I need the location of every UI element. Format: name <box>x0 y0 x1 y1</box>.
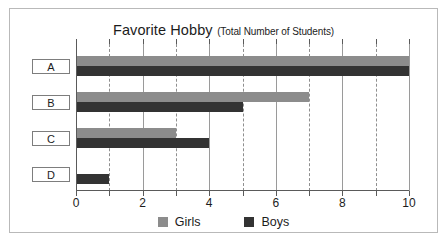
tick-bottom-9 <box>376 191 377 196</box>
legend-label-girls: Girls <box>175 215 201 229</box>
chart-legend: GirlsBoys <box>10 215 437 229</box>
category-label-d: D <box>32 167 70 182</box>
chart-card: Favorite Hobby (Total Number of Students… <box>9 8 438 233</box>
gridline-major-10 <box>409 44 410 191</box>
plot-area <box>76 44 409 191</box>
legend-entry-girls: Girls <box>158 215 201 229</box>
x-tick-label-10: 10 <box>394 196 424 210</box>
legend-label-boys: Boys <box>261 215 289 229</box>
category-label-b: B <box>32 95 70 110</box>
legend-swatch-boys <box>244 217 254 227</box>
x-tick-label-6: 6 <box>261 196 291 210</box>
x-tick-label-8: 8 <box>327 196 357 210</box>
x-tick-label-4: 4 <box>194 196 224 210</box>
chart-title: Favorite Hobby (Total Number of Students… <box>10 21 437 39</box>
tick-bottom-7 <box>309 191 310 196</box>
tick-bottom-5 <box>243 191 244 196</box>
tick-bottom-1 <box>109 191 110 196</box>
tick-bottom-3 <box>176 191 177 196</box>
x-tick-label-2: 2 <box>128 196 158 210</box>
tick-top-10 <box>409 39 410 44</box>
x-tick-label-0: 0 <box>61 196 91 210</box>
category-label-a: A <box>32 59 70 74</box>
plot-frame <box>76 44 409 191</box>
category-label-c: C <box>32 131 70 146</box>
legend-entry-boys: Boys <box>244 215 289 229</box>
chart-title-main: Favorite Hobby <box>113 22 213 38</box>
chart-title-subtitle: (Total Number of Students) <box>217 26 334 37</box>
legend-swatch-girls <box>158 217 168 227</box>
